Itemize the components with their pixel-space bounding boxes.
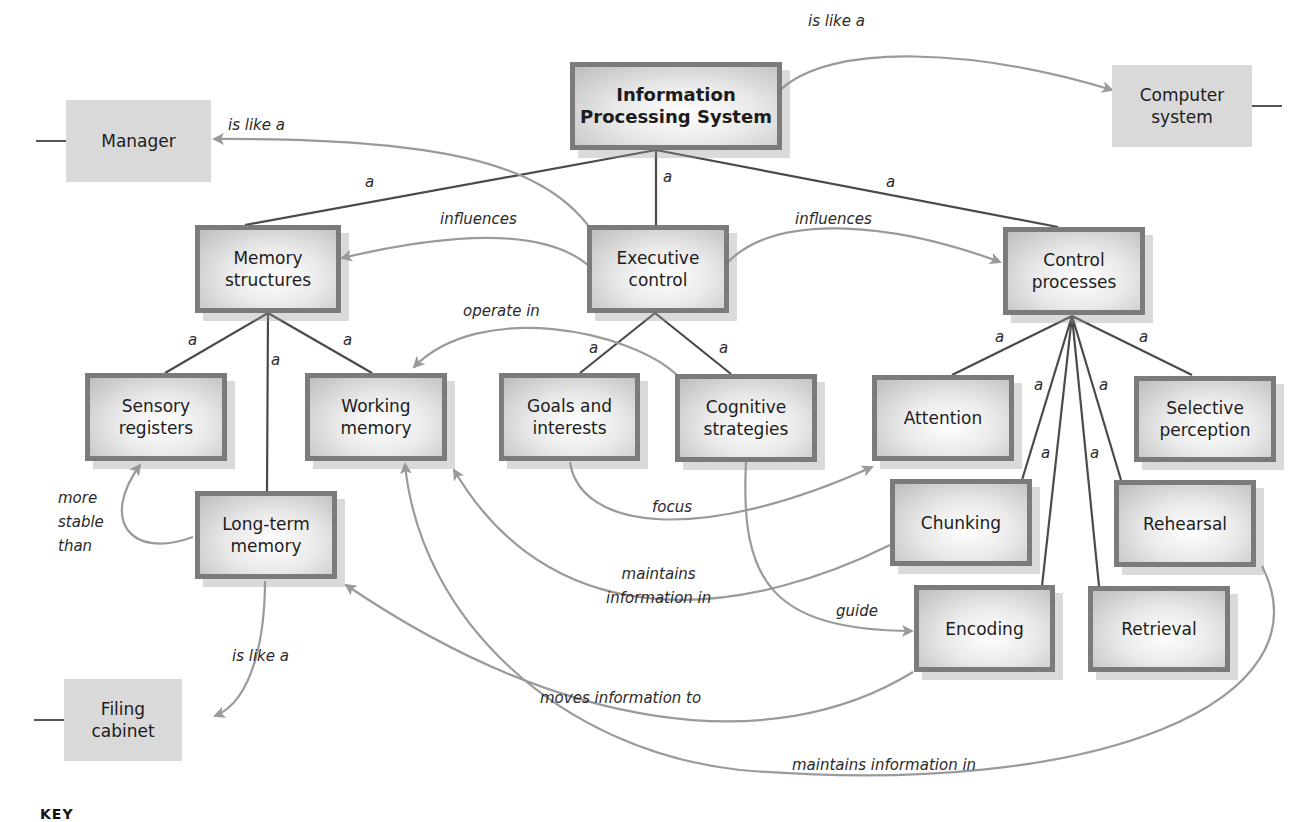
label-is-like-a-filing: is like a — [232, 647, 289, 666]
node-retrieval[interactable]: Retrieval — [1088, 586, 1230, 672]
node-label-line1: Long-term — [222, 513, 310, 535]
label-a-control-attention: a — [995, 328, 1004, 347]
node-label-line1: Working — [340, 395, 411, 417]
node-label-line1: Goals and — [527, 395, 612, 417]
node-label-line1: Chunking — [921, 512, 1001, 534]
label-maintains-information-in-rehearsal: maintains information in — [792, 756, 976, 775]
node-label-line1: Sensory — [119, 395, 193, 417]
node-long-term-memory[interactable]: Long-termmemory — [195, 491, 337, 579]
node-manager[interactable]: Manager — [66, 100, 211, 182]
label-maintains-information-in-chunking: maintains information in — [606, 562, 711, 610]
label-a-memory-sensory: a — [188, 331, 197, 350]
manager-stub-line — [36, 140, 66, 142]
node-label-line1: Selective — [1159, 397, 1250, 419]
node-filing-cabinet[interactable]: Filingcabinet — [64, 679, 182, 761]
node-control-processes[interactable]: Controlprocesses — [1003, 227, 1145, 315]
node-label-line1: Rehearsal — [1143, 513, 1227, 535]
node-rehearsal[interactable]: Rehearsal — [1114, 480, 1256, 567]
node-encoding[interactable]: Encoding — [914, 585, 1055, 672]
filing-stub-line — [34, 719, 64, 721]
node-label-line2: cabinet — [91, 720, 154, 742]
label-more-stable-than: more stable than — [58, 486, 104, 558]
label-influences-memory: influences — [440, 210, 517, 229]
label-operate-in: operate in — [463, 302, 540, 321]
label-a-control-chunking: a — [1034, 376, 1043, 395]
node-information-processing-system[interactable]: InformationProcessing System — [570, 62, 782, 150]
node-label-line1: Encoding — [945, 618, 1023, 640]
label-a-ips-memory: a — [365, 173, 374, 192]
edge-memory-working — [268, 313, 372, 373]
label-a-control-retrieval: a — [1090, 444, 1099, 463]
node-label-line2: memory — [222, 535, 310, 557]
label-a-control-encoding: a — [1041, 444, 1050, 463]
edge-ips-computer — [778, 56, 1112, 92]
label-a-control-rehearsal: a — [1099, 376, 1108, 395]
node-label-line1: Computer — [1140, 84, 1225, 106]
node-label-line1: Memory — [225, 247, 311, 269]
label-line: more — [58, 486, 104, 510]
label-moves-information-to: moves information to — [540, 689, 701, 708]
node-label-line2: system — [1140, 106, 1225, 128]
node-chunking[interactable]: Chunking — [890, 479, 1032, 566]
edge-control-selective — [1072, 316, 1192, 375]
node-sensory-registers[interactable]: Sensoryregisters — [85, 373, 227, 461]
label-line: information in — [606, 586, 711, 610]
node-goals-and-interests[interactable]: Goals andinterests — [499, 373, 640, 461]
label-a-executive-goals: a — [589, 339, 598, 358]
edge-memory-longterm — [267, 313, 268, 491]
label-line: maintains — [606, 562, 711, 586]
node-memory-structures[interactable]: Memorystructures — [195, 225, 341, 313]
edge-cognitive-working — [414, 328, 678, 376]
label-a-ips-control: a — [886, 173, 895, 192]
node-label-line1: Filing — [91, 698, 154, 720]
label-a-ips-executive: a — [663, 168, 672, 187]
node-label-line1: Cognitive — [704, 396, 789, 418]
node-label-line2: structures — [225, 269, 311, 291]
key-heading: KEY — [40, 806, 74, 822]
node-cognitive-strategies[interactable]: Cognitivestrategies — [675, 374, 817, 462]
edge-control-attention — [952, 316, 1072, 375]
node-label-line2: control — [617, 269, 700, 291]
node-label-line2: processes — [1032, 271, 1117, 293]
node-label-line1: Information — [580, 84, 772, 106]
label-guide: guide — [836, 602, 878, 621]
node-label-line2: strategies — [704, 418, 789, 440]
label-a-memory-longterm: a — [271, 351, 280, 370]
node-executive-control[interactable]: Executivecontrol — [587, 225, 729, 313]
computer-stub-line — [1252, 105, 1282, 107]
node-label-line1: Executive — [617, 247, 700, 269]
label-a-executive-cognitive: a — [719, 339, 728, 358]
node-working-memory[interactable]: Workingmemory — [305, 373, 447, 461]
label-line: stable — [58, 510, 104, 534]
edge-goals-attention — [570, 462, 872, 520]
node-label-line2: registers — [119, 417, 193, 439]
node-label-line2: memory — [340, 417, 411, 439]
node-label-line1: Attention — [904, 407, 982, 429]
label-line: than — [58, 534, 104, 558]
label-is-like-a-manager: is like a — [228, 116, 285, 135]
node-label-line1: Manager — [101, 130, 176, 152]
label-is-like-a-computer: is like a — [808, 12, 865, 31]
label-a-memory-working: a — [343, 331, 352, 350]
edge-executive-manager — [214, 139, 590, 228]
label-influences-control: influences — [795, 210, 872, 229]
node-attention[interactable]: Attention — [872, 375, 1014, 461]
node-selective-perception[interactable]: Selectiveperception — [1134, 376, 1276, 462]
edge-longterm-sensory — [122, 465, 193, 544]
node-label-line1: Control — [1032, 249, 1117, 271]
label-focus: focus — [652, 498, 692, 517]
edge-memory-sensory — [165, 313, 268, 373]
node-label-line2: Processing System — [580, 106, 772, 128]
node-label-line2: interests — [527, 417, 612, 439]
node-computer-system[interactable]: Computersystem — [1112, 65, 1252, 147]
node-label-line2: perception — [1159, 419, 1250, 441]
node-label-line1: Retrieval — [1121, 618, 1197, 640]
label-a-control-selective: a — [1139, 328, 1148, 347]
edge-executive-memory — [342, 238, 588, 265]
edge-executive-control — [728, 228, 1000, 262]
